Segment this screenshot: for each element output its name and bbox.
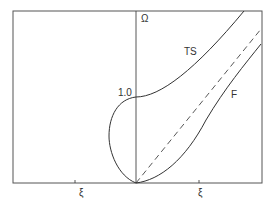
diagram-canvas xyxy=(0,0,274,205)
ts-label: TS xyxy=(184,47,197,57)
f-label: F xyxy=(231,90,237,100)
dashed-line xyxy=(136,29,261,183)
value-1-0-label: 1.0 xyxy=(118,88,132,98)
f-curve xyxy=(136,44,261,183)
omega-label: Ω xyxy=(141,14,148,24)
xi-label-right: ξ xyxy=(198,188,202,198)
xi-label-left: ξ xyxy=(79,188,83,198)
